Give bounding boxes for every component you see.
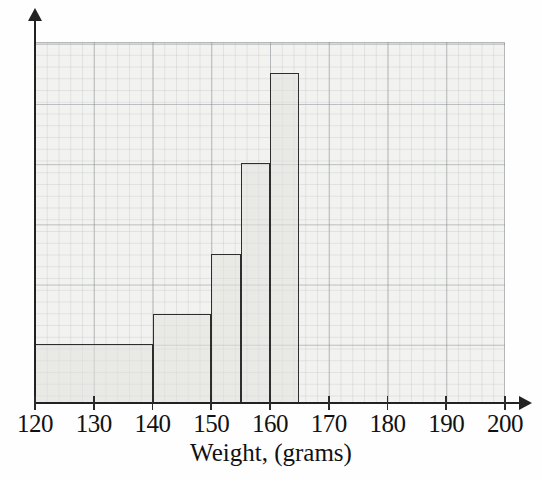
histogram-bar (270, 73, 299, 404)
plot-area (35, 42, 505, 403)
y-axis-line (34, 18, 36, 405)
histogram-bar (35, 344, 153, 404)
x-axis-tick (152, 396, 154, 410)
x-axis-title: Weight, (grams) (0, 439, 542, 467)
x-axis-arrow-icon (519, 396, 532, 410)
x-axis-line (34, 402, 523, 404)
histogram-bar (153, 314, 212, 404)
x-axis-tick (504, 396, 506, 410)
x-axis-tick (328, 396, 330, 410)
histogram-figure: 120130140150160170180190200 Weight, (gra… (0, 0, 542, 479)
y-axis-arrow-icon (28, 8, 42, 21)
x-axis-tick (269, 396, 271, 410)
x-axis-tick (93, 396, 95, 410)
x-axis-tick (387, 396, 389, 410)
x-axis-tick (34, 396, 36, 410)
x-axis-tick (210, 396, 212, 410)
histogram-bar (241, 163, 270, 404)
x-axis-tick (445, 396, 447, 410)
x-axis-tick-label: 200 (470, 410, 540, 438)
histogram-bar (211, 254, 240, 405)
